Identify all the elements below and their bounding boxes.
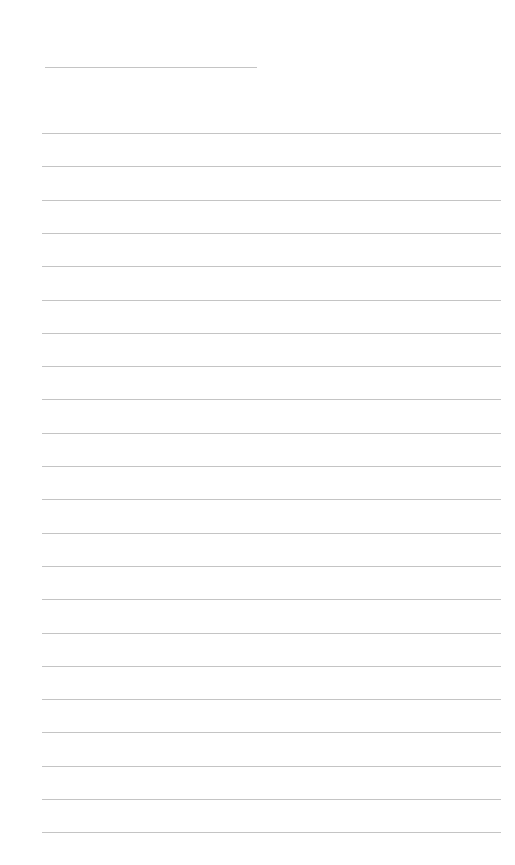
ruled-line-field[interactable] [42, 805, 501, 833]
ruled-line-field[interactable] [42, 106, 501, 134]
ruled-line-field[interactable] [42, 672, 501, 700]
ruled-line-field[interactable] [42, 639, 501, 667]
ruled-line-field[interactable] [42, 139, 501, 167]
ruled-lines-container [0, 0, 515, 865]
ruled-line-field[interactable] [42, 239, 501, 267]
ruled-line-field[interactable] [42, 572, 501, 600]
ruled-line-field[interactable] [42, 606, 501, 634]
ruled-line-field[interactable] [42, 306, 501, 334]
ruled-line-field[interactable] [42, 506, 501, 534]
ruled-line-field[interactable] [42, 439, 501, 467]
ruled-line-field[interactable] [42, 406, 501, 434]
ruled-line-field[interactable] [42, 206, 501, 234]
ruled-line-field[interactable] [42, 739, 501, 767]
ruled-line-field[interactable] [42, 372, 501, 400]
ruled-line-field[interactable] [42, 705, 501, 733]
ruled-line-field[interactable] [42, 772, 501, 800]
ruled-line-field[interactable] [42, 273, 501, 301]
lined-paper-page [0, 0, 515, 865]
ruled-line-field[interactable] [42, 539, 501, 567]
ruled-line-field[interactable] [42, 339, 501, 367]
ruled-line-field[interactable] [42, 173, 501, 201]
ruled-line-field[interactable] [42, 472, 501, 500]
